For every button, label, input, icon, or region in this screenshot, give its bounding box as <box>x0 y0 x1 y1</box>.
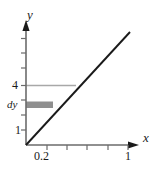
y-axis-label: y <box>27 8 33 21</box>
figure-canvas <box>0 0 158 170</box>
x-tick-label-1: 1 <box>125 150 131 162</box>
x-tick-label-0-2: 0.2 <box>34 150 49 162</box>
x-axis-arrowhead <box>128 141 139 148</box>
y-tick-label-1: 1 <box>15 124 21 136</box>
y-tick-label-4: 4 <box>12 79 18 91</box>
tangent-line <box>26 32 130 145</box>
dy-label: dy <box>7 99 17 110</box>
dy-bar <box>26 102 53 109</box>
differential-dy-figure: y x 4 1 dy 0.2 1 <box>0 0 158 170</box>
x-axis-label: x <box>143 131 149 144</box>
